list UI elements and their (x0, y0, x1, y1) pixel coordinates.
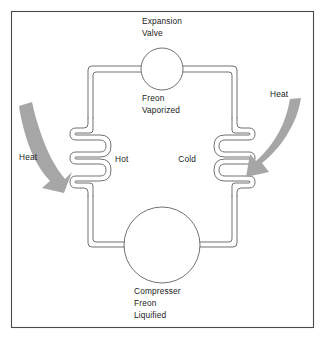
pipe-bottom-right-inner (199, 196, 232, 242)
refrigeration-cycle-diagram: Expansion Valve Freon Vaporized Hot Cold… (0, 0, 325, 339)
expansion-valve-circle (141, 48, 183, 90)
cold-label: Cold (178, 154, 196, 164)
hot-coil-inner-rail (75, 118, 111, 196)
heat-out-arrow (19, 102, 72, 193)
freon-vaporized-label-line2: Vaporized (142, 105, 180, 115)
pipe-bottom-left-outer (88, 196, 126, 247)
compressor-circle (124, 207, 200, 283)
pipe-top-right-outer (183, 66, 237, 118)
pipe-top-left-inner (93, 72, 141, 118)
pipe-top-left-outer (88, 66, 141, 118)
cold-coil-inner-rail (214, 118, 250, 196)
pipe-top-right-inner (183, 72, 232, 118)
compressor-label-line1: Compresser (134, 286, 181, 296)
compressor-label-line2: Freon (134, 298, 157, 308)
freon-vaporized-label-line1: Freon (142, 93, 165, 103)
compressor-label-line3: Liquified (134, 310, 166, 320)
heat-left-label: Heat (19, 152, 38, 162)
heat-right-label: Heat (270, 89, 289, 99)
expansion-valve-label-line2: Valve (142, 28, 163, 38)
pipe-bottom-right-outer (199, 196, 237, 247)
expansion-valve-label-line1: Expansion (142, 16, 182, 26)
hot-label: Hot (115, 154, 129, 164)
pipe-bottom-left-inner (93, 196, 126, 242)
